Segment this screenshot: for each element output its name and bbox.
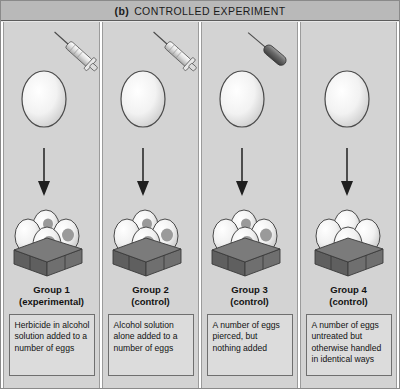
egg-carton-group-1 [4,200,99,282]
group-description-4: A number of eggs untreated but otherwise… [306,314,392,376]
group-name-3: Group 3 [231,284,267,295]
group-type-2: (control) [131,296,170,308]
group-name-4: Group 4 [330,284,366,295]
piercing-needle-icon [245,29,288,68]
group-label-2: Group 2 (control) [131,284,170,308]
arrow-down-group-1 [4,148,99,200]
arrow-down-group-2 [103,148,198,200]
scene-group-1 [4,26,99,148]
figure-header-text: (b)CONTROLLED EXPERIMENT [115,5,286,17]
group-type-1: (experimental) [19,296,84,308]
group-description-2: Alcohol solution alone added to a number… [108,314,194,376]
group-type-4: (control) [329,296,368,308]
group-description-1: Herbicide in alcohol solution added to a… [9,314,95,376]
egg-carton-group-3 [202,200,297,282]
panel-strip: Group 1 (experimental) Herbicide in alco… [1,22,399,388]
egg-illustration [220,71,264,127]
panel-group-3: Group 3 (control) A number of eggs pierc… [201,22,298,388]
syringe-icon [50,26,100,75]
group-name-1: Group 1 [33,284,69,295]
arrow-down-group-3 [202,148,297,200]
figure-controlled-experiment: (b)CONTROLLED EXPERIMENT [0,0,400,389]
egg-illustration [325,71,369,127]
egg-illustration [22,71,66,127]
figure-header: (b)CONTROLLED EXPERIMENT [1,1,399,21]
scene-group-3 [202,26,297,148]
scene-group-4 [301,26,396,148]
figure-title: CONTROLLED EXPERIMENT [134,5,285,17]
arrow-down-group-4 [301,148,396,200]
group-type-3: (control) [230,296,269,308]
panel-group-1: Group 1 (experimental) Herbicide in alco… [3,22,100,388]
group-label-1: Group 1 (experimental) [19,284,84,308]
group-description-3: A number of eggs pierced, but nothing ad… [207,314,293,376]
egg-carton-group-2 [103,200,198,282]
scene-group-2 [103,26,198,148]
group-label-4: Group 4 (control) [329,284,368,308]
egg-carton-group-4 [301,200,396,282]
syringe-icon [149,26,199,75]
egg-illustration [121,71,165,127]
panel-group-2: Group 2 (control) Alcohol solution alone… [102,22,199,388]
panel-group-4: Group 4 (control) A number of eggs untre… [300,22,397,388]
group-name-2: Group 2 [132,284,168,295]
figure-part-label: (b) [115,5,130,17]
group-label-3: Group 3 (control) [230,284,269,308]
